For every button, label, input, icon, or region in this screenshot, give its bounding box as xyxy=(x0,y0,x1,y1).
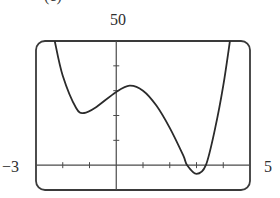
axis-ticks xyxy=(63,66,224,168)
function-curve xyxy=(55,41,230,174)
plot-area xyxy=(0,0,280,198)
